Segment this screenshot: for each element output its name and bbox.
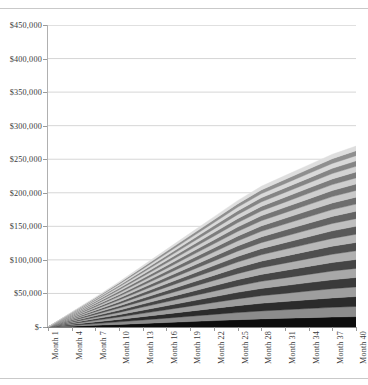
x-axis-tick-mark [48, 327, 49, 331]
x-axis-tick-label: Month 22 [217, 331, 226, 364]
x-axis-tick-label: Month 1 [51, 331, 60, 360]
stacked-area-chart: $450,000$400,000$350,000$300,000$250,000… [0, 0, 368, 385]
x-axis-tick-mark [190, 327, 191, 331]
x-axis-labels: Month 1Month 4Month 7Month 10Month 13Mon… [0, 0, 368, 385]
x-axis-tick-label: Month 10 [122, 331, 131, 364]
x-axis-tick-label: Month 31 [288, 331, 297, 364]
x-axis-tick-mark [214, 327, 215, 331]
x-axis-tick-mark [238, 327, 239, 331]
x-axis-tick-mark [119, 327, 120, 331]
x-axis-tick-mark [285, 327, 286, 331]
x-axis-tick-mark [95, 327, 96, 331]
x-axis-tick-label: Month 25 [241, 331, 250, 364]
x-axis-tick-mark [72, 327, 73, 331]
x-axis-tick-mark [166, 327, 167, 331]
x-axis-tick-mark [143, 327, 144, 331]
x-axis-tick-label: Month 16 [170, 331, 179, 364]
x-axis-tick-label: Month 37 [336, 331, 345, 364]
x-axis-tick-mark [309, 327, 310, 331]
x-axis-tick-label: Month 4 [75, 331, 84, 360]
x-axis-tick-label: Month 28 [264, 331, 273, 364]
x-axis-tick-label: Month 34 [312, 331, 321, 364]
x-axis-tick-label: Month 7 [99, 331, 108, 360]
x-axis-tick-mark [356, 327, 357, 331]
x-axis-tick-label: Month 13 [146, 331, 155, 364]
x-axis-tick-mark [332, 327, 333, 331]
x-axis-tick-label: Month 19 [193, 331, 202, 364]
x-axis-tick-mark [261, 327, 262, 331]
x-axis-tick-label: Month 40 [359, 331, 368, 364]
